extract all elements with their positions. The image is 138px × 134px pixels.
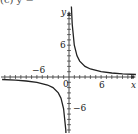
y-tick-label-6: 6	[60, 41, 66, 50]
x-tick-label-neg6: −6	[32, 66, 45, 75]
curve-left-branch	[2, 80, 67, 134]
curve-right-branch	[71, 7, 135, 75]
y-tick-label-neg6: −6	[73, 104, 86, 113]
x-axis-label: x	[131, 81, 136, 90]
function-graph	[0, 0, 138, 133]
y-axis-label: y	[61, 8, 66, 17]
origin-label: 0	[63, 80, 69, 89]
x-tick-label-6: 6	[99, 81, 105, 90]
